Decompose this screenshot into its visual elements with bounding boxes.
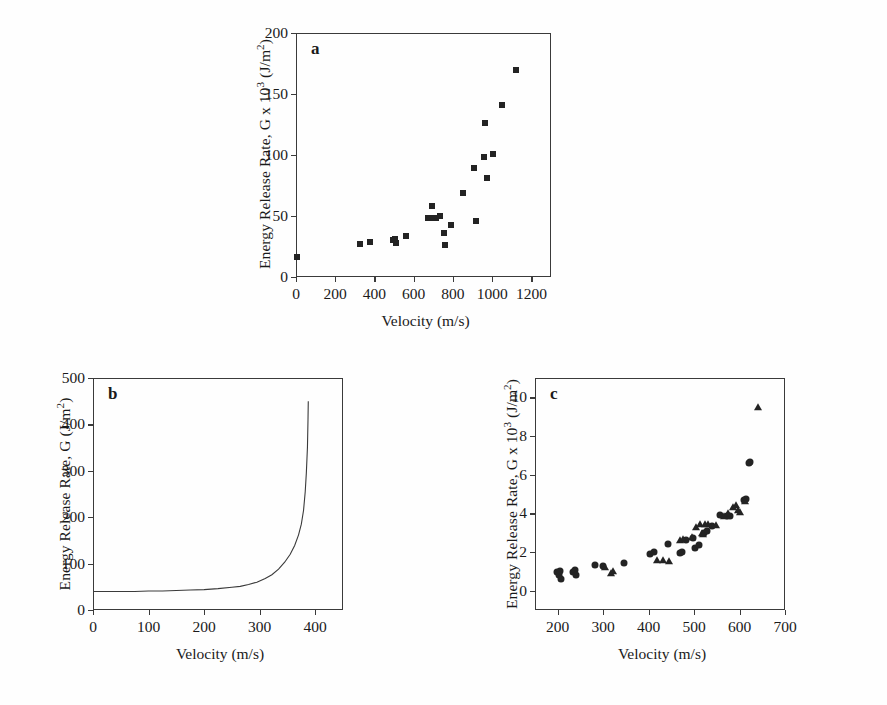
panel-b-curve <box>93 378 343 610</box>
data-point-square <box>481 154 487 160</box>
data-point-square <box>403 233 409 239</box>
data-point-square <box>441 230 447 236</box>
y-tick-mark <box>291 216 296 217</box>
data-point-square <box>448 222 454 228</box>
x-tick-mark <box>531 277 532 282</box>
figure-canvas: a Energy Release Rate, G x 103 (J/m2) Ve… <box>0 0 887 705</box>
x-tick-mark <box>785 610 786 615</box>
x-tick-mark <box>260 610 261 615</box>
data-point-square <box>482 120 488 126</box>
x-tick-mark <box>558 610 559 615</box>
x-tick-label: 600 <box>402 285 425 303</box>
y-tick-label: 200 <box>244 24 288 42</box>
x-tick-label: 300 <box>592 618 615 636</box>
x-tick-label: 0 <box>89 618 97 636</box>
data-point-square <box>513 67 519 73</box>
data-point-triangle <box>704 520 712 527</box>
y-tick-label: 100 <box>244 146 288 164</box>
data-point-triangle <box>741 497 749 504</box>
y-tick-mark <box>530 513 535 514</box>
y-tick-label: 2 <box>483 543 527 561</box>
data-point-circle <box>665 541 672 548</box>
data-point-circle <box>557 575 564 582</box>
data-point-square <box>393 240 399 246</box>
data-point-circle <box>557 568 564 575</box>
x-tick-mark <box>204 610 205 615</box>
x-tick-label: 600 <box>728 618 751 636</box>
y-tick-mark <box>291 94 296 95</box>
y-tick-label: 8 <box>483 427 527 445</box>
data-point-circle <box>747 459 754 466</box>
x-tick-mark <box>694 610 695 615</box>
x-tick-label: 200 <box>324 285 347 303</box>
x-tick-label: 200 <box>192 618 215 636</box>
data-point-square <box>294 254 300 260</box>
data-point-triangle <box>665 557 673 564</box>
panel-a-x-axis-label: Velocity (m/s) <box>298 312 553 330</box>
data-point-square <box>442 242 448 248</box>
data-point-triangle <box>688 533 696 540</box>
y-tick-mark <box>530 552 535 553</box>
x-tick-mark <box>453 277 454 282</box>
y-tick-label: 500 <box>41 369 85 387</box>
curve-path <box>93 401 308 591</box>
data-point-triangle <box>724 509 732 516</box>
x-tick-mark <box>740 610 741 615</box>
x-tick-label: 500 <box>682 618 705 636</box>
x-tick-label: 0 <box>292 285 300 303</box>
y-tick-label: 6 <box>483 466 527 484</box>
data-point-triangle <box>609 567 617 574</box>
x-tick-label: 400 <box>363 285 386 303</box>
x-tick-label: 300 <box>248 618 271 636</box>
x-tick-label: 800 <box>441 285 464 303</box>
y-tick-mark <box>530 475 535 476</box>
x-tick-mark <box>149 610 150 615</box>
data-point-circle <box>572 571 579 578</box>
y-tick-label: 400 <box>41 415 85 433</box>
y-tick-label: 50 <box>244 207 288 225</box>
x-tick-label: 1000 <box>477 285 508 303</box>
data-point-square <box>484 175 490 181</box>
x-tick-label: 400 <box>304 618 327 636</box>
data-point-square <box>357 241 363 247</box>
panel-b-y-axis-label: Energy Release Rate, G (J/m2) <box>56 374 74 614</box>
x-tick-mark <box>374 277 375 282</box>
data-point-circle <box>695 542 702 549</box>
y-tick-label: 150 <box>244 85 288 103</box>
y-tick-mark <box>291 155 296 156</box>
data-point-square <box>471 165 477 171</box>
panel-a-letter: a <box>311 39 320 59</box>
x-tick-label: 1200 <box>516 285 547 303</box>
data-point-square <box>437 213 443 219</box>
panel-a: a Energy Release Rate, G x 103 (J/m2) Ve… <box>0 0 620 345</box>
x-tick-mark <box>335 277 336 282</box>
panel-c: c Energy Release Rate, G x 103 (J/m2) Ve… <box>440 360 887 705</box>
y-tick-label: 100 <box>41 555 85 573</box>
x-tick-label: 400 <box>637 618 660 636</box>
data-point-square <box>429 203 435 209</box>
data-point-triangle <box>736 509 744 516</box>
data-point-triangle <box>712 521 720 528</box>
y-tick-label: 4 <box>483 504 527 522</box>
panel-b-x-axis-label: Velocity (m/s) <box>95 645 345 663</box>
y-tick-label: 0 <box>41 601 85 619</box>
x-tick-mark <box>296 277 297 282</box>
data-point-square <box>460 190 466 196</box>
y-tick-label: 0 <box>483 582 527 600</box>
y-tick-mark <box>530 591 535 592</box>
y-tick-mark <box>530 397 535 398</box>
panel-c-x-axis-label: Velocity (m/s) <box>537 645 787 663</box>
data-point-square <box>490 151 496 157</box>
data-point-circle <box>592 561 599 568</box>
data-point-circle <box>620 559 627 566</box>
y-tick-label: 200 <box>41 508 85 526</box>
x-tick-label: 700 <box>773 618 796 636</box>
x-tick-mark <box>414 277 415 282</box>
data-point-triangle <box>679 536 687 543</box>
data-point-square <box>473 218 479 224</box>
data-point-triangle <box>699 530 707 537</box>
x-tick-label: 100 <box>137 618 160 636</box>
panel-c-letter: c <box>550 384 558 404</box>
data-point-triangle <box>754 403 762 410</box>
x-tick-mark <box>93 610 94 615</box>
